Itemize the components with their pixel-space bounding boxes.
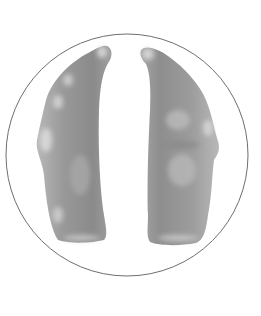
- left-lobe: [37, 46, 112, 243]
- right-lobe: [140, 47, 219, 245]
- figure-canvas: [0, 0, 261, 316]
